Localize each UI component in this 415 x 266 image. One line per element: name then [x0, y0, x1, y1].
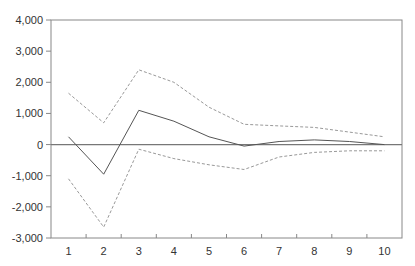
x-tick-label: 9	[346, 245, 352, 257]
x-tick-label: 4	[171, 245, 177, 257]
series-upper-band	[69, 70, 385, 137]
y-axis: 4,0003,0002,0001,0000-1,000-2,000-3,000	[12, 14, 51, 244]
series-response	[69, 110, 385, 174]
x-tick-label: 7	[276, 245, 282, 257]
series-lower-band	[69, 149, 385, 227]
y-tick-label: 4,000	[15, 14, 43, 26]
x-tick-label: 8	[311, 245, 317, 257]
plot-border	[51, 20, 402, 238]
x-axis: 12345678910	[65, 234, 390, 257]
y-tick-label: -2,000	[12, 201, 43, 213]
y-tick-label: 0	[37, 139, 43, 151]
x-tick-label: 6	[241, 245, 247, 257]
x-tick-label: 5	[206, 245, 212, 257]
y-tick-label: 3,000	[15, 45, 43, 57]
series-lines	[69, 70, 385, 227]
x-tick-label: 2	[101, 245, 107, 257]
y-tick-label: -1,000	[12, 170, 43, 182]
x-tick-label: 1	[65, 245, 71, 257]
y-tick-label: -3,000	[12, 232, 43, 244]
y-tick-label: 2,000	[15, 76, 43, 88]
impulse-response-chart: 4,0003,0002,0001,0000-1,000-2,000-3,000 …	[0, 0, 415, 266]
x-tick-label: 3	[136, 245, 142, 257]
x-tick-label: 10	[378, 245, 390, 257]
y-tick-label: 1,000	[15, 107, 43, 119]
plot-frame	[51, 20, 402, 238]
